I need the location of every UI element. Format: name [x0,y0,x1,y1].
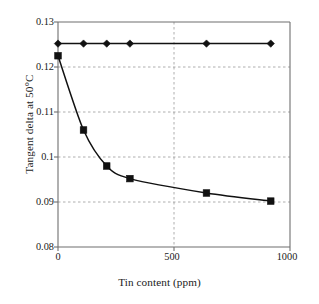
x-axis-title: Tin content (ppm) [0,276,319,288]
series-diamond [54,40,274,47]
data-point [203,40,210,47]
plot-area [0,0,319,304]
data-point [54,40,61,47]
gridlines [58,22,290,247]
data-point [203,190,210,197]
chart-container: Tangent delta at 50°C 0.13 0.12 0.11 0.1… [0,0,319,304]
data-point [80,127,87,134]
data-point [267,40,274,47]
data-point [127,175,134,182]
data-point [103,163,110,170]
axis-ticks [54,22,290,251]
series-square [55,52,274,204]
data-point [80,40,87,47]
data-point [267,198,274,205]
data-point [103,40,110,47]
data-point [126,40,133,47]
data-point [55,52,62,59]
